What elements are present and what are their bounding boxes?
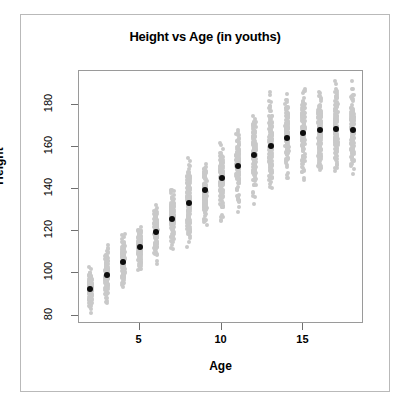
data-point xyxy=(269,170,273,174)
data-point xyxy=(318,168,322,172)
data-point xyxy=(350,136,354,140)
data-point xyxy=(138,231,142,235)
data-point xyxy=(352,93,356,97)
x-axis-label: Age xyxy=(78,359,363,373)
data-point xyxy=(155,259,159,263)
data-point xyxy=(170,240,174,244)
mean-data-point xyxy=(350,127,356,133)
chart-title: Height vs Age (in youths) xyxy=(20,29,390,44)
data-point xyxy=(318,145,322,149)
data-point xyxy=(269,130,273,134)
data-point xyxy=(319,99,323,103)
data-point xyxy=(316,116,320,120)
x-axis-tick xyxy=(302,323,303,330)
data-point xyxy=(302,96,306,100)
data-point xyxy=(251,134,255,138)
y-axis-tick xyxy=(71,230,78,231)
mean-data-point xyxy=(219,175,225,181)
y-axis-tick-label: 80 xyxy=(42,297,54,331)
data-point xyxy=(350,155,354,159)
data-point xyxy=(220,196,224,200)
data-point xyxy=(235,151,239,155)
data-point xyxy=(202,195,206,199)
data-point xyxy=(251,190,255,194)
data-point xyxy=(185,245,189,249)
data-point xyxy=(188,159,192,163)
data-point xyxy=(333,99,337,103)
x-axis-tick xyxy=(139,323,140,330)
data-point xyxy=(122,278,126,282)
figure-root: Height vs Age (in youths) 80100120140160… xyxy=(0,0,409,408)
data-point xyxy=(171,232,175,236)
data-point xyxy=(237,181,241,185)
mean-data-point xyxy=(120,259,126,265)
x-axis-tick xyxy=(221,323,222,330)
data-point xyxy=(252,202,256,206)
data-point xyxy=(335,147,339,151)
data-point xyxy=(254,183,258,187)
data-point xyxy=(186,189,190,193)
data-point xyxy=(121,285,125,289)
data-point xyxy=(204,162,208,166)
mean-data-point xyxy=(137,244,143,250)
data-point xyxy=(284,159,288,163)
data-point xyxy=(317,157,321,161)
data-point xyxy=(302,178,306,182)
mean-data-point xyxy=(169,216,175,222)
data-point xyxy=(89,267,93,271)
data-point xyxy=(287,149,291,153)
data-point xyxy=(269,109,273,113)
data-point xyxy=(139,252,143,256)
data-point xyxy=(136,268,140,272)
data-point xyxy=(286,171,290,175)
y-axis-tick xyxy=(71,315,78,316)
data-point xyxy=(104,288,108,292)
data-point xyxy=(335,157,339,161)
data-point xyxy=(172,205,176,209)
data-point xyxy=(268,150,272,154)
y-axis-tick-label: 140 xyxy=(42,170,54,204)
data-point xyxy=(106,246,110,250)
data-point xyxy=(350,79,354,83)
data-point xyxy=(139,238,143,242)
y-axis-tick xyxy=(71,104,78,105)
data-point xyxy=(236,210,240,214)
data-point xyxy=(253,117,257,121)
mean-data-point xyxy=(153,229,159,235)
data-point xyxy=(302,142,306,146)
data-point xyxy=(252,123,256,127)
data-point xyxy=(220,184,224,188)
data-point xyxy=(301,91,305,95)
data-point xyxy=(335,89,339,93)
mean-data-point xyxy=(186,200,192,206)
y-axis-tick-label: 160 xyxy=(42,128,54,162)
mean-data-point xyxy=(268,143,274,149)
x-axis-tick-label: 15 xyxy=(287,333,317,345)
data-point xyxy=(351,87,355,91)
data-point xyxy=(121,268,125,272)
y-axis-tick xyxy=(71,146,78,147)
scatter-points-layer xyxy=(79,71,362,322)
data-point xyxy=(270,114,274,118)
data-point xyxy=(235,177,239,181)
data-point xyxy=(352,167,356,171)
data-point xyxy=(171,247,175,251)
data-point xyxy=(219,161,223,165)
data-point xyxy=(269,154,273,158)
x-axis-tick-label: 5 xyxy=(124,333,154,345)
y-axis-tick xyxy=(71,272,78,273)
data-point xyxy=(106,251,110,255)
data-point xyxy=(335,166,339,170)
data-point xyxy=(205,223,209,227)
plot-panel xyxy=(78,70,363,323)
data-point xyxy=(352,122,356,126)
data-point xyxy=(237,199,241,203)
data-point xyxy=(301,154,305,158)
data-point xyxy=(334,82,338,86)
data-point xyxy=(317,152,321,156)
data-point xyxy=(251,194,255,198)
mean-data-point xyxy=(104,272,110,278)
data-point xyxy=(186,213,190,217)
data-point xyxy=(268,93,272,97)
data-point xyxy=(123,232,127,236)
